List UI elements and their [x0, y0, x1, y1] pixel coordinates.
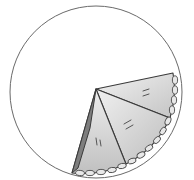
illustration — [0, 0, 194, 180]
